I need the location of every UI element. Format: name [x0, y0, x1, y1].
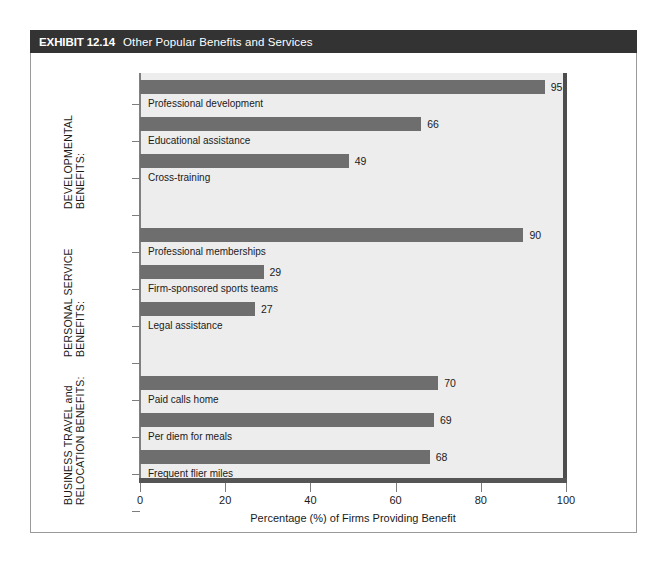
y-axis-tick [132, 141, 140, 142]
x-axis-tick-label: 100 [557, 494, 575, 506]
x-axis-tick [225, 483, 226, 492]
x-axis-tick [481, 483, 482, 492]
group-label-line-1: DEVELOPMENTAL [62, 115, 74, 209]
y-axis-tick [132, 363, 140, 364]
group-label-line-1: PERSONAL SERVICE [62, 248, 74, 357]
y-axis-tick [132, 289, 140, 290]
x-axis-tick-label: 40 [304, 494, 316, 506]
y-axis-tick [132, 326, 140, 327]
x-axis-tick-label: 60 [389, 494, 401, 506]
bar-category-label: Cross-training [148, 172, 210, 183]
bar-value-label: 66 [427, 118, 439, 130]
bar-category-label: Legal assistance [148, 320, 223, 331]
bar-category-label: Firm-sponsored sports teams [148, 283, 278, 294]
bar-category-label: Frequent flier miles [148, 468, 233, 479]
bar [140, 376, 438, 390]
x-axis-tick-label: 20 [219, 494, 231, 506]
group-label-line-2: BENEFITS: [74, 248, 86, 357]
bar [140, 80, 545, 94]
bar-value-label: 27 [261, 303, 273, 315]
exhibit-title: Other Popular Benefits and Services [123, 36, 313, 48]
group-label-line-2: BENEFITS: [74, 115, 86, 209]
plot-right-boundary-line [563, 73, 567, 479]
bar [140, 413, 434, 427]
x-axis-tick-label: 0 [137, 494, 143, 506]
y-axis-tick [132, 437, 140, 438]
bar-category-label: Educational assistance [148, 135, 250, 146]
bar-category-label: Per diem for meals [148, 431, 232, 442]
y-axis-group-label: DEVELOPMENTALBENEFITS: [62, 115, 86, 209]
bar [140, 302, 255, 316]
x-axis-title: Percentage (%) of Firms Providing Benefi… [140, 512, 566, 524]
bar-value-label: 69 [440, 414, 452, 426]
x-axis-tick [140, 483, 141, 492]
y-axis-group-label: BUSINESS TRAVEL andRELOCATION BENEFITS: [62, 376, 86, 505]
bar-category-label: Professional development [148, 98, 263, 109]
exhibit-title-bar: EXHIBIT 12.14 Other Popular Benefits and… [30, 30, 637, 53]
group-label-line-2: RELOCATION BENEFITS: [74, 376, 86, 505]
x-axis-tick [310, 483, 311, 492]
y-axis-tick [132, 215, 140, 216]
bar-value-label: 90 [529, 229, 541, 241]
x-axis-tick [396, 483, 397, 492]
bar [140, 450, 430, 464]
bar-category-label: Paid calls home [148, 394, 219, 405]
bar-value-label: 49 [355, 155, 367, 167]
bar-chart: 95Professional development66Educational … [30, 53, 637, 533]
y-axis-tick [132, 400, 140, 401]
y-axis-tick [132, 104, 140, 105]
y-axis-tick [132, 511, 140, 512]
y-axis-tick [132, 474, 140, 475]
bar [140, 117, 421, 131]
bar [140, 228, 523, 242]
x-axis-tick [566, 483, 567, 492]
bar-value-label: 68 [436, 451, 448, 463]
y-axis-tick [132, 252, 140, 253]
y-axis-tick [132, 178, 140, 179]
bar-value-label: 29 [270, 266, 282, 278]
group-label-line-1: BUSINESS TRAVEL and [62, 385, 74, 505]
exhibit-number: EXHIBIT 12.14 [39, 36, 115, 48]
bar-value-label: 95 [551, 81, 563, 93]
x-axis-tick-label: 80 [475, 494, 487, 506]
bar [140, 154, 349, 168]
bar [140, 265, 264, 279]
bar-value-label: 70 [444, 377, 456, 389]
y-axis-group-label: PERSONAL SERVICEBENEFITS: [62, 248, 86, 357]
bar-category-label: Professional memberships [148, 246, 266, 257]
